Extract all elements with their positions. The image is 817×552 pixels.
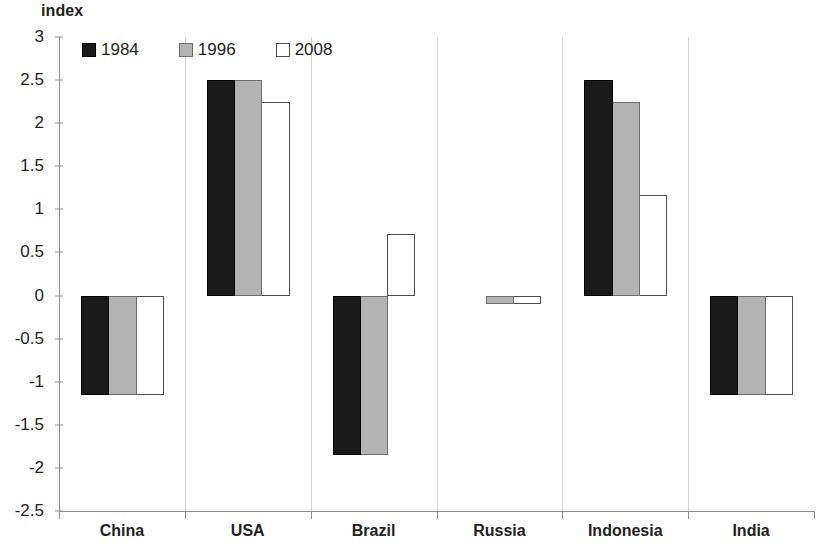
y-tick-label: -2 [0, 458, 44, 478]
y-tick-label: 2 [0, 113, 44, 133]
x-category-label-india: India [732, 522, 769, 540]
x-category-label-russia: Russia [473, 522, 525, 540]
y-tick-label: 2.5 [0, 70, 44, 90]
x-tick-mark [437, 511, 438, 519]
x-tick-mark [59, 511, 60, 519]
bar-usa-2008 [261, 102, 289, 295]
x-tick-mark [562, 511, 563, 519]
x-category-label-indonesia: Indonesia [588, 522, 663, 540]
chart-legend: 198419962008 [82, 40, 332, 60]
x-tick-mark [185, 511, 186, 519]
bar-usa-1996 [234, 80, 262, 295]
y-axis-title: index [41, 2, 83, 20]
bar-india-1984 [710, 296, 738, 395]
bar-china-1996 [108, 296, 136, 395]
bar-china-2008 [136, 296, 164, 395]
legend-swatch-icon-2008 [276, 43, 290, 57]
bar-usa-1984 [207, 80, 235, 295]
x-category-label-china: China [100, 522, 144, 540]
plot-area [59, 37, 814, 511]
bar-indonesia-1996 [612, 102, 640, 296]
legend-item-1984: 1984 [82, 40, 139, 60]
bar-brazil-1984 [333, 296, 361, 455]
bar-brazil-2008 [387, 234, 415, 295]
bar-india-2008 [765, 296, 793, 395]
legend-item-2008: 2008 [276, 40, 333, 60]
x-tick-mark [814, 511, 815, 519]
bar-russia-1996 [486, 296, 514, 305]
bar-russia-2008 [513, 296, 541, 305]
bar-indonesia-2008 [639, 195, 667, 296]
legend-label: 1984 [101, 40, 139, 60]
y-tick-label: 0 [0, 286, 44, 306]
bar-indonesia-1984 [584, 80, 612, 295]
legend-swatch-icon-1996 [179, 43, 193, 57]
legend-item-1996: 1996 [179, 40, 236, 60]
bar-india-1996 [737, 296, 765, 395]
y-tick-label: 1 [0, 199, 44, 219]
legend-label: 2008 [295, 40, 333, 60]
bar-chart: index 32.521.510.50-0.5-1-1.5-2-2.5 Chin… [0, 0, 817, 552]
legend-swatch-icon-1984 [82, 43, 96, 57]
y-tick-label: -1 [0, 372, 44, 392]
y-tick-label: 0.5 [0, 242, 44, 262]
x-tick-mark [311, 511, 312, 519]
x-tick-mark [688, 511, 689, 519]
x-category-label-brazil: Brazil [352, 522, 396, 540]
bar-brazil-1996 [360, 296, 388, 455]
y-tick-label: -1.5 [0, 415, 44, 435]
y-tick-label: -0.5 [0, 329, 44, 349]
bar-china-1984 [81, 296, 109, 395]
y-tick-label: 3 [0, 27, 44, 47]
x-category-label-usa: USA [231, 522, 265, 540]
y-tick-label: 1.5 [0, 156, 44, 176]
legend-label: 1996 [198, 40, 236, 60]
y-tick-label: -2.5 [0, 501, 44, 521]
